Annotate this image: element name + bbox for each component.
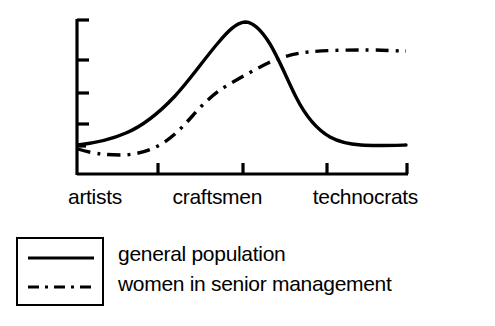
plot-area — [0, 0, 495, 182]
figure-line-chart: artists craftsmen technocrats general po… — [0, 0, 495, 326]
legend-label-women-in-senior-management: women in senior management — [118, 269, 392, 299]
x-axis-label-craftsmen: craftsmen — [173, 186, 263, 207]
x-axis-label-artists: artists — [68, 186, 122, 207]
series-line-general-population — [78, 22, 406, 146]
chart-legend: general population women in senior manag… — [16, 237, 392, 306]
legend-label-list: general population women in senior manag… — [118, 237, 392, 299]
legend-swatch-solid-line — [27, 253, 95, 263]
chart-svg — [0, 0, 495, 182]
x-axis-category-labels: artists craftsmen technocrats — [68, 186, 418, 207]
x-axis-label-technocrats: technocrats — [313, 186, 418, 207]
legend-sample-box — [16, 237, 104, 306]
legend-label-general-population: general population — [118, 239, 392, 269]
legend-swatch-dash-dot-line — [27, 282, 95, 292]
series-line-women-in-senior-management — [78, 50, 406, 155]
